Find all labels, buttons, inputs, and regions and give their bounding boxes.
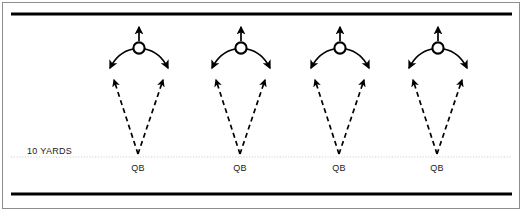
- qb-dropback-route-left-2: [216, 80, 240, 154]
- qb-label-2: QB: [233, 163, 247, 173]
- receiver-release-left-3: [311, 49, 334, 68]
- qb-dropback-route-left-3: [315, 80, 339, 154]
- receiver-release-left-1: [110, 49, 133, 68]
- receiver-release-right-4: [444, 49, 467, 68]
- qb-dropback-route-left-1: [114, 80, 138, 154]
- qb-dropback-route-right-1: [138, 80, 163, 154]
- receiver-release-right-2: [247, 49, 270, 68]
- field-canvas: [0, 0, 525, 214]
- qb-label-3: QB: [332, 163, 346, 173]
- receiver-release-left-4: [409, 49, 432, 68]
- drill-unit-3: [311, 27, 369, 154]
- receiver-marker-3: [334, 42, 345, 53]
- receiver-release-left-2: [212, 49, 235, 68]
- qb-dropback-route-right-4: [437, 80, 462, 154]
- drill-unit-2: [212, 27, 270, 154]
- play-diagram-root: 10 YARDS QB QB QB QB: [0, 0, 525, 214]
- receiver-marker-4: [432, 42, 443, 53]
- qb-label-4: QB: [430, 163, 444, 173]
- receiver-marker-1: [133, 42, 144, 53]
- receiver-release-right-3: [346, 49, 369, 68]
- qb-label-1: QB: [131, 163, 145, 173]
- drill-unit-1: [110, 27, 168, 154]
- receiver-release-right-1: [145, 49, 168, 68]
- qb-dropback-route-right-3: [339, 80, 364, 154]
- drill-unit-4: [409, 27, 467, 154]
- receiver-marker-2: [235, 42, 246, 53]
- ten-yard-line-label: 10 YARDS: [27, 146, 72, 156]
- qb-dropback-route-right-2: [240, 80, 265, 154]
- qb-dropback-route-left-4: [413, 80, 437, 154]
